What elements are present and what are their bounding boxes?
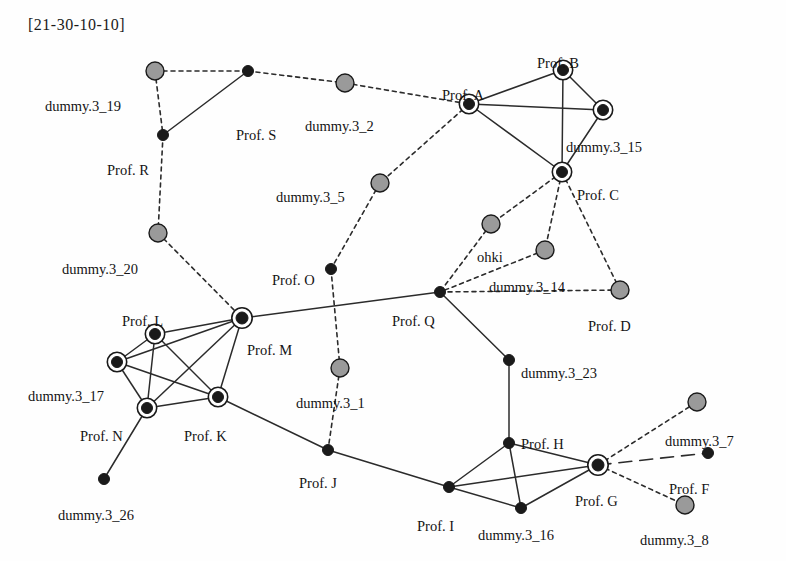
node-dot-d15 [598, 105, 609, 116]
node-label-d8: dummy.3_8 [640, 533, 709, 548]
node-label-d15: dummy.3_15 [566, 140, 642, 155]
node-G[interactable] [588, 455, 608, 475]
node-dot-I [444, 482, 455, 493]
node-label-J: Prof. J [299, 476, 337, 491]
node-dot-D [611, 281, 629, 299]
edge-d17-K [117, 362, 218, 397]
node-label-F: Prof. F [669, 482, 709, 497]
node-layer [99, 60, 714, 514]
node-dot-M [236, 312, 248, 324]
node-R[interactable] [158, 130, 169, 141]
node-label-L: Prof. L [122, 314, 163, 329]
node-label-A: Prof. A [442, 88, 484, 103]
node-dot-d5 [371, 174, 389, 192]
node-d20[interactable] [149, 224, 167, 242]
node-d5[interactable] [371, 174, 389, 192]
edge-R-d20 [158, 135, 163, 233]
edge-A-d15 [469, 104, 603, 110]
node-J[interactable] [323, 445, 334, 456]
node-label-d26: dummy.3_26 [58, 508, 134, 523]
edge-C-d14 [545, 172, 562, 250]
node-dot-N [142, 403, 153, 414]
edge-I-d16 [449, 487, 521, 508]
node-label-C: Prof. C [577, 188, 619, 203]
edge-J-I [328, 450, 449, 487]
node-dot-d23 [504, 355, 515, 366]
node-M[interactable] [232, 308, 252, 328]
node-d16[interactable] [516, 503, 527, 514]
node-d8[interactable] [676, 496, 694, 514]
node-N[interactable] [137, 398, 156, 417]
node-H[interactable] [504, 438, 515, 449]
node-dot-J [323, 445, 334, 456]
node-F[interactable] [703, 448, 714, 459]
node-S[interactable] [243, 66, 254, 77]
node-label-G: Prof. G [575, 494, 618, 509]
node-dot-C [557, 167, 568, 178]
node-dot-R [158, 130, 169, 141]
node-Q[interactable] [435, 287, 446, 298]
edge-C-ohki [491, 172, 562, 224]
node-label-d23: dummy.3_23 [521, 366, 597, 381]
node-dot-F [703, 448, 714, 459]
node-dot-O [326, 264, 337, 275]
node-label-ohki: ohki [477, 250, 503, 265]
node-dot-ohki [482, 215, 500, 233]
node-d23[interactable] [504, 355, 515, 366]
node-dot-K [213, 392, 224, 403]
node-dot-d16 [516, 503, 527, 514]
node-label-d2: dummy.3_2 [305, 119, 374, 134]
node-dot-G [592, 459, 604, 471]
node-d26[interactable] [99, 474, 110, 485]
node-label-d7: dummy.3_7 [665, 434, 734, 449]
node-label-O: Prof. O [272, 273, 315, 288]
node-dot-d17 [112, 357, 123, 368]
node-C[interactable] [552, 162, 571, 181]
node-K[interactable] [208, 387, 227, 406]
node-label-H: Prof. H [521, 437, 564, 452]
node-label-d17: dummy.3_17 [28, 389, 104, 404]
node-d1[interactable] [331, 359, 349, 377]
node-d15[interactable] [593, 100, 612, 119]
node-d19[interactable] [146, 62, 164, 80]
node-label-Q: Prof. Q [392, 314, 435, 329]
edge-d20-M [158, 233, 242, 318]
node-I[interactable] [444, 482, 455, 493]
node-label-B: Prof. B [537, 56, 579, 71]
node-d7[interactable] [688, 393, 706, 411]
node-dot-d8 [676, 496, 694, 514]
node-D[interactable] [611, 281, 629, 299]
node-label-I: Prof. I [417, 519, 454, 534]
network-diagram-figure: [21-30-10-10] dummy.3_19Prof. Sdummy.3_2… [0, 0, 786, 561]
node-ohki[interactable] [482, 215, 500, 233]
edge-M-L [155, 318, 242, 334]
edge-A-C [469, 104, 562, 172]
node-label-d20: dummy.3_20 [62, 262, 138, 277]
node-dot-d20 [149, 224, 167, 242]
network-graph-canvas [0, 0, 786, 561]
edge-L-N [147, 334, 155, 408]
node-d17[interactable] [107, 352, 126, 371]
edge-S-R [163, 71, 248, 135]
node-label-d5: dummy.3_5 [276, 190, 345, 205]
node-label-M: Prof. M [247, 343, 292, 358]
node-dot-d7 [688, 393, 706, 411]
edge-S-d2 [248, 71, 345, 83]
node-dot-d2 [336, 74, 354, 92]
node-dot-d26 [99, 474, 110, 485]
node-label-S: Prof. S [236, 128, 276, 143]
edge-I-G [449, 465, 598, 487]
edge-O-d1 [331, 269, 340, 368]
node-dot-d14 [536, 241, 554, 259]
node-dot-H [504, 438, 515, 449]
node-d14[interactable] [536, 241, 554, 259]
node-dot-d1 [331, 359, 349, 377]
edge-B-C [562, 70, 563, 172]
node-d2[interactable] [336, 74, 354, 92]
node-label-d16: dummy.3_16 [478, 528, 554, 543]
node-dot-d19 [146, 62, 164, 80]
node-label-D: Prof. D [588, 319, 631, 334]
node-O[interactable] [326, 264, 337, 275]
edge-I-H [449, 443, 509, 487]
node-label-d19: dummy.3_19 [45, 99, 121, 114]
